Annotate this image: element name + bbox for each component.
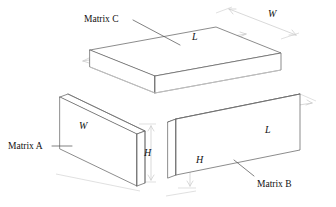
block-matrix-b[interactable] [168, 94, 300, 178]
dim-line-w-top [229, 9, 296, 35]
block-matrix-c[interactable] [90, 27, 281, 93]
ext-line-w-top-b [281, 33, 299, 39]
label-dim-l-b: L [264, 124, 271, 135]
text-labels-group: Matrix C Matrix A Matrix B W L W H H L [8, 8, 292, 189]
label-dim-l-top: L [191, 31, 198, 42]
ext-line-l-b-right [300, 94, 316, 101]
figure-canvas: Matrix C Matrix A Matrix B W L W H H L [0, 0, 336, 207]
ground-line-right [166, 191, 196, 196]
label-matrix-b: Matrix B [257, 179, 292, 189]
label-matrix-c: Matrix C [84, 14, 119, 24]
label-matrix-a: Matrix A [8, 141, 43, 151]
block-matrix-a[interactable] [60, 94, 145, 186]
dim-arrow-l-b-end [306, 100, 312, 105]
label-dim-h-a: H [143, 147, 152, 158]
matrix-multiply-isometric-diagram: Matrix C Matrix A Matrix B W L W H H L [0, 0, 336, 207]
matrix-a-right-face [137, 131, 145, 186]
label-dim-w-top: W [268, 8, 278, 19]
label-dim-h-b: H [195, 154, 204, 165]
leader-matrix-b [234, 160, 254, 176]
matrix-b-left-face [168, 119, 176, 178]
